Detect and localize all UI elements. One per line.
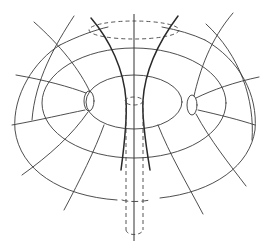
left-small-loop (84, 91, 94, 111)
radial-lines (12, 13, 259, 214)
outer-contour (15, 27, 256, 202)
right-small-loop (187, 95, 197, 115)
toroidal-field-diagram (0, 0, 269, 249)
